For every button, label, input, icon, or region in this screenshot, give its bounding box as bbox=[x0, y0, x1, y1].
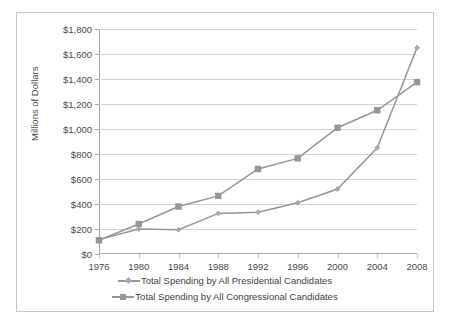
square-marker-icon bbox=[96, 237, 102, 243]
square-marker-icon bbox=[136, 221, 142, 227]
y-axis-tick-label: $800 bbox=[71, 149, 92, 160]
square-marker-icon bbox=[255, 166, 261, 172]
series-2 bbox=[96, 79, 420, 244]
x-axis-tick-mark bbox=[417, 254, 418, 258]
y-axis-tick-label: $0 bbox=[81, 249, 92, 260]
square-marker-icon bbox=[374, 107, 380, 113]
x-axis-tick-label: 2008 bbox=[406, 261, 427, 272]
y-axis-tick-label: $200 bbox=[71, 224, 92, 235]
series-line bbox=[99, 82, 417, 240]
x-axis-tick-mark bbox=[298, 254, 299, 258]
x-axis-tick-label: 1980 bbox=[128, 261, 149, 272]
y-axis-tick-label: $400 bbox=[71, 199, 92, 210]
legend-item-label: Total Spending by All Presidential Candi… bbox=[141, 275, 332, 286]
square-marker-icon bbox=[414, 79, 420, 85]
x-axis-tick-label: 1976 bbox=[88, 261, 109, 272]
y-axis-title: Millions of Dollars bbox=[29, 67, 40, 141]
legend-item-2[interactable]: Total Spending by All Congressional Cand… bbox=[112, 291, 337, 302]
x-axis-tick-mark bbox=[338, 254, 339, 258]
square-marker-icon bbox=[112, 291, 134, 302]
x-axis-tick-mark bbox=[218, 254, 219, 258]
x-axis-tick-label: 1988 bbox=[208, 261, 229, 272]
square-marker-icon bbox=[334, 125, 340, 131]
x-axis-tick-mark bbox=[99, 254, 100, 258]
x-axis-tick-label: 1996 bbox=[287, 261, 308, 272]
chart-legend: Total Spending by All Presidential Candi… bbox=[17, 275, 433, 302]
y-axis-tick-label: $1,800 bbox=[63, 24, 92, 35]
x-axis-tick-label: 1984 bbox=[168, 261, 189, 272]
legend-item-label: Total Spending by All Congressional Cand… bbox=[135, 291, 337, 302]
y-axis-tick-label: $1,200 bbox=[63, 99, 92, 110]
square-marker-icon bbox=[215, 193, 221, 199]
diamond-marker-icon bbox=[255, 209, 261, 215]
chart-container: Millions of Dollars $0$200$400$600$800$1… bbox=[16, 12, 434, 312]
series-1 bbox=[96, 45, 420, 243]
y-axis-tick-label: $1,600 bbox=[63, 49, 92, 60]
diamond-marker-icon bbox=[215, 210, 221, 216]
square-marker-icon bbox=[175, 203, 181, 209]
y-axis-tick-label: $600 bbox=[71, 174, 92, 185]
y-axis-tick-label: $1,400 bbox=[63, 74, 92, 85]
diamond-marker-icon bbox=[295, 200, 301, 206]
diamond-marker-icon bbox=[118, 275, 140, 286]
plot-area: $0$200$400$600$800$1,000$1,200$1,400$1,6… bbox=[99, 29, 417, 254]
legend-item-1[interactable]: Total Spending by All Presidential Candi… bbox=[118, 275, 332, 286]
square-marker-icon bbox=[295, 155, 301, 161]
x-axis-tick-label: 1992 bbox=[247, 261, 268, 272]
x-axis-tick-mark bbox=[139, 254, 140, 258]
x-axis-tick-label: 2004 bbox=[367, 261, 388, 272]
diamond-marker-icon bbox=[176, 227, 182, 233]
y-axis-tick-label: $1,000 bbox=[63, 124, 92, 135]
x-axis-tick-mark bbox=[258, 254, 259, 258]
series-layer bbox=[99, 29, 417, 254]
x-axis-tick-label: 2000 bbox=[327, 261, 348, 272]
x-axis-tick-mark bbox=[377, 254, 378, 258]
diamond-marker-icon bbox=[414, 45, 420, 51]
x-axis-tick-mark bbox=[179, 254, 180, 258]
